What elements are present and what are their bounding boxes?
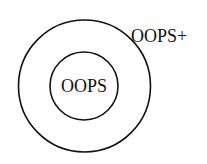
- outer-label: OOPS+: [131, 26, 187, 46]
- nested-set-diagram: OOPS OOPS+: [0, 0, 207, 164]
- inner-label: OOPS: [61, 76, 107, 96]
